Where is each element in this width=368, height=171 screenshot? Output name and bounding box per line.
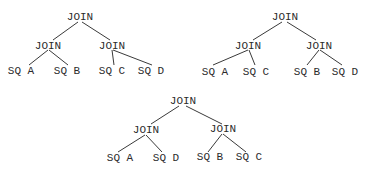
- edge: [307, 50, 319, 65]
- edge: [186, 106, 222, 124]
- edge: [287, 22, 316, 40]
- edge: [82, 22, 110, 40]
- edge: [151, 106, 179, 124]
- leaf-node: SQ B: [197, 152, 223, 163]
- edge: [53, 22, 78, 40]
- leaf-node: SQ B: [54, 66, 80, 77]
- tree-edges: [0, 0, 368, 171]
- root-join-node: JOIN: [170, 96, 196, 107]
- left-join-node: JOIN: [235, 41, 261, 52]
- leaf-node: SQ D: [332, 67, 358, 78]
- leaf-node: SQ D: [153, 153, 179, 164]
- edge: [223, 134, 246, 152]
- root-join-node: JOIN: [67, 12, 93, 23]
- leaf-node: SQ A: [202, 67, 228, 78]
- edge: [118, 135, 145, 152]
- edge: [320, 50, 342, 65]
- right-join-node: JOIN: [99, 41, 125, 52]
- leaf-node: SQ C: [99, 66, 125, 77]
- root-join-node: JOIN: [272, 12, 298, 23]
- leaf-node: SQ B: [294, 67, 320, 78]
- edge: [113, 50, 152, 65]
- edge: [249, 50, 255, 65]
- left-join-node: JOIN: [35, 41, 61, 52]
- right-join-node: JOIN: [306, 41, 332, 52]
- left-join-node: JOIN: [133, 125, 159, 136]
- leaf-node: SQ A: [107, 153, 133, 164]
- edge: [213, 50, 248, 65]
- leaf-node: SQ C: [236, 152, 262, 163]
- leaf-node: SQ A: [8, 66, 34, 77]
- edge: [112, 50, 114, 65]
- edge: [253, 22, 282, 40]
- edge: [208, 134, 222, 152]
- leaf-node: SQ C: [243, 67, 269, 78]
- right-join-node: JOIN: [210, 124, 236, 135]
- edge: [29, 50, 48, 65]
- leaf-node: SQ D: [138, 66, 164, 77]
- edge: [49, 50, 68, 65]
- edge: [146, 135, 162, 152]
